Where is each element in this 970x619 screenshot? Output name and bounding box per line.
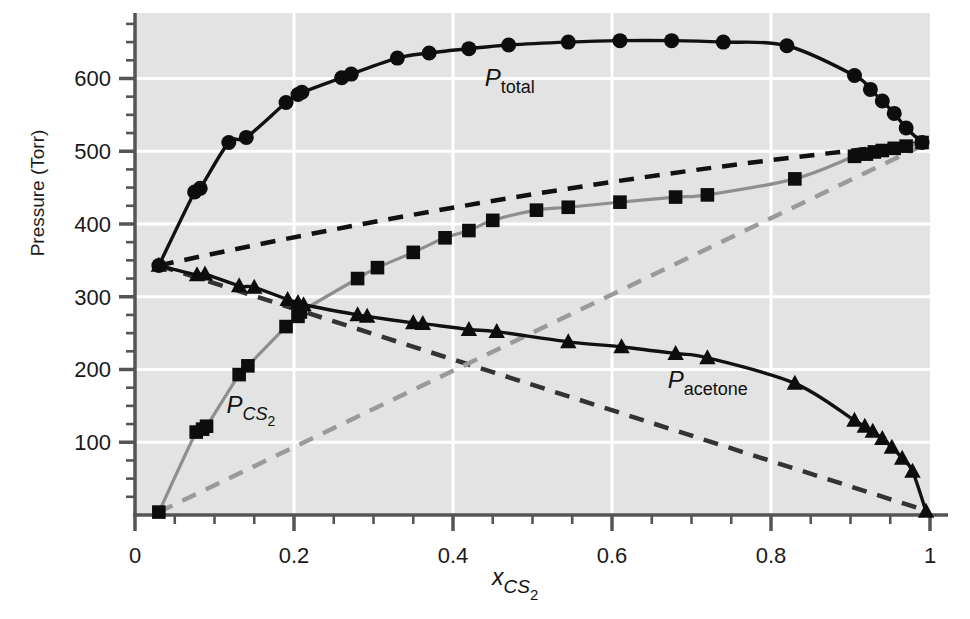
x-tick-label: 0.6 [597, 543, 628, 568]
x-tick-label: 1 [924, 543, 936, 568]
x-tick-label: 0.8 [756, 543, 787, 568]
data-point-P_total [716, 35, 731, 50]
data-point-P_CS2 [152, 505, 166, 519]
data-point-P_total [899, 120, 914, 135]
data-point-P_total [390, 51, 405, 66]
data-point-P_CS2 [351, 272, 365, 286]
data-point-P_CS2 [899, 139, 913, 153]
data-point-P_CS2 [438, 231, 452, 245]
data-point-P_total [875, 94, 890, 109]
y-tick-label: 100 [74, 430, 111, 455]
data-point-P_total [422, 46, 437, 61]
data-point-P_total [664, 33, 679, 48]
data-point-P_CS2 [788, 172, 802, 186]
data-point-P_total [239, 130, 254, 145]
data-point-P_CS2 [613, 195, 627, 209]
svg-text:xCS2: xCS2 [491, 564, 538, 603]
data-point-P_total [294, 85, 309, 100]
chart-canvas: 10020030040050060000.20.40.60.81PtotalPC… [0, 0, 970, 619]
data-point-P_total [847, 68, 862, 83]
data-point-P_CS2 [701, 188, 715, 202]
data-point-P_total [863, 82, 878, 97]
x-tick-label: 0 [129, 543, 141, 568]
x-tick-label: 0.4 [438, 543, 469, 568]
y-tick-label: 400 [74, 212, 111, 237]
data-point-P_CS2 [887, 142, 901, 156]
y-tick-label: 300 [74, 285, 111, 310]
data-point-P_total [461, 41, 476, 56]
data-point-P_CS2 [530, 203, 544, 217]
data-point-P_CS2 [279, 320, 293, 334]
data-point-P_total [344, 67, 359, 82]
data-point-P_CS2 [462, 224, 476, 238]
data-point-P_CS2 [200, 419, 214, 433]
data-point-P_CS2 [915, 136, 929, 150]
data-point-P_total [221, 135, 236, 150]
data-point-P_CS2 [406, 246, 420, 260]
y-axis-label-text: Pressure (Torr) [27, 130, 48, 257]
data-point-P_CS2 [241, 359, 255, 373]
data-point-P_total [561, 35, 576, 50]
data-point-P_total [612, 33, 627, 48]
data-point-P_total [501, 38, 516, 53]
data-point-P_CS2 [371, 261, 385, 275]
y-axis-label: Pressure (Torr) [27, 93, 49, 293]
data-point-P_CS2 [876, 144, 890, 158]
x-axis-title: xCS2 [491, 564, 538, 603]
chart-figure: 10020030040050060000.20.40.60.81PtotalPC… [0, 0, 970, 619]
data-point-P_CS2 [486, 214, 500, 228]
data-point-P_CS2 [561, 200, 575, 214]
x-tick-label: 0.2 [279, 543, 310, 568]
data-point-P_total [193, 181, 208, 196]
y-tick-label: 500 [74, 139, 111, 164]
y-tick-label: 200 [74, 357, 111, 382]
data-point-P_total [887, 106, 902, 121]
y-tick-label: 600 [74, 66, 111, 91]
data-point-P_total [779, 38, 794, 53]
data-point-P_CS2 [669, 190, 683, 204]
data-point-P_CS2 [848, 150, 862, 164]
